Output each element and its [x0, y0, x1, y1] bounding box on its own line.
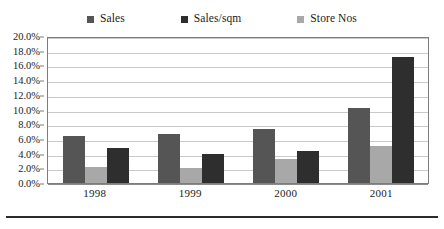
- y-axis-tick-mark: [40, 184, 44, 185]
- bar: [253, 129, 275, 183]
- y-axis-tick-label: 6.0%: [18, 135, 40, 146]
- y-axis-tick-label: 10.0%: [13, 105, 40, 116]
- legend-label: Sales: [100, 13, 125, 25]
- x-axis-tick-label: 1999: [143, 186, 239, 204]
- bar: [348, 108, 370, 183]
- bar: [392, 57, 414, 183]
- y-axis-tick-label: 18.0%: [13, 46, 40, 57]
- y-axis-tick-mark: [40, 37, 44, 38]
- legend-swatch-icon: [181, 16, 188, 23]
- y-axis-tick-mark: [40, 110, 44, 111]
- bar-group: [333, 38, 428, 183]
- bar: [180, 168, 202, 183]
- y-axis-tick-mark: [40, 66, 44, 67]
- y-axis-tick-mark: [40, 139, 44, 140]
- plot-area: [47, 37, 429, 184]
- bar-group: [238, 38, 333, 183]
- y-axis-tick-label: 8.0%: [18, 120, 40, 131]
- bar-group: [143, 38, 238, 183]
- bar-group: [48, 38, 143, 183]
- y-axis-tick-mark: [40, 154, 44, 155]
- y-axis-tick-mark: [40, 51, 44, 52]
- y-axis-tick-mark: [40, 125, 44, 126]
- y-axis-tick-label: 20.0%: [13, 32, 40, 43]
- bar: [63, 136, 85, 183]
- y-axis-tick-label: 12.0%: [13, 91, 40, 102]
- bar: [85, 167, 107, 183]
- legend-label: Sales/sqm: [194, 13, 242, 25]
- legend-item: Sales: [87, 13, 125, 25]
- x-axis: 1998199920002001: [47, 186, 429, 204]
- bar: [202, 154, 224, 183]
- y-axis: 0.0%2.0%4.0%6.0%8.0%10.0%12.0%14.0%16.0%…: [0, 37, 44, 184]
- x-axis-tick-label: 1998: [47, 186, 143, 204]
- legend-swatch-icon: [87, 16, 94, 23]
- x-axis-tick-label: 2000: [238, 186, 334, 204]
- bottom-rule: [6, 216, 438, 218]
- bar-groups: [48, 38, 428, 183]
- bar: [107, 148, 129, 183]
- y-axis-tick-label: 14.0%: [13, 76, 40, 87]
- y-axis-tick-mark: [40, 169, 44, 170]
- chart-legend: SalesSales/sqmStore Nos: [0, 9, 444, 29]
- y-axis-tick-label: 4.0%: [18, 149, 40, 160]
- x-axis-tick-label: 2001: [334, 186, 430, 204]
- bar: [275, 159, 297, 183]
- legend-item: Store Nos: [297, 13, 357, 25]
- bar: [297, 151, 319, 183]
- y-axis-tick-label: 2.0%: [18, 164, 40, 175]
- y-axis-tick-label: 0.0%: [18, 179, 40, 190]
- bar: [370, 146, 392, 183]
- y-axis-tick-mark: [40, 95, 44, 96]
- legend-swatch-icon: [297, 16, 304, 23]
- gridline: [48, 184, 428, 185]
- legend-label: Store Nos: [310, 13, 357, 25]
- bar-chart-figure: SalesSales/sqmStore Nos 0.0%2.0%4.0%6.0%…: [0, 0, 444, 229]
- bar: [158, 134, 180, 183]
- legend-item: Sales/sqm: [181, 13, 242, 25]
- y-axis-tick-label: 16.0%: [13, 61, 40, 72]
- y-axis-tick-mark: [40, 81, 44, 82]
